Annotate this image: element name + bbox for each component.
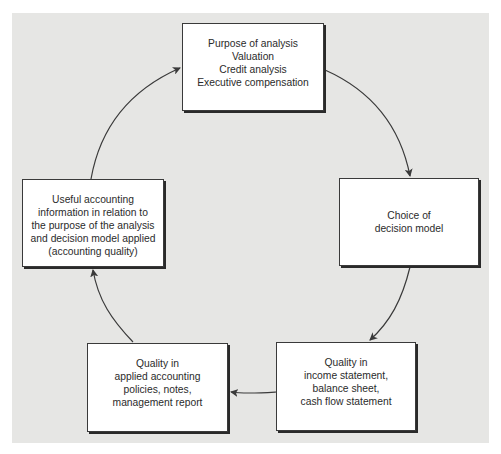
arrow-decision-model-to-quality-statements bbox=[370, 267, 410, 340]
node-text-line: cash flow statement bbox=[301, 395, 392, 408]
node-quality-in-statements: Quality in income statement, balance she… bbox=[276, 342, 416, 431]
node-text-line: Credit analysis bbox=[219, 63, 287, 76]
node-text-line: Quality in bbox=[325, 356, 368, 369]
arrow-purpose-to-decision-model bbox=[325, 70, 410, 176]
node-choice-of-decision-model: Choice of decision model bbox=[339, 178, 479, 266]
node-text-line: Choice of bbox=[387, 209, 431, 222]
arrow-useful-info-to-purpose bbox=[91, 68, 180, 179]
node-text-line: balance sheet, bbox=[313, 382, 380, 395]
node-purpose-of-analysis: Purpose of analysis Valuation Credit ana… bbox=[182, 23, 324, 111]
node-useful-accounting-information: Useful accounting information in relatio… bbox=[22, 179, 164, 267]
node-text-line: Purpose of analysis bbox=[208, 37, 298, 50]
node-quality-in-policies: Quality in applied accounting policies, … bbox=[87, 343, 228, 432]
arrow-statements-to-policies bbox=[231, 392, 276, 393]
node-text-line: management report bbox=[113, 396, 203, 409]
node-text-line: Useful accounting bbox=[52, 193, 134, 206]
node-text-line: policies, notes, bbox=[123, 383, 191, 396]
node-text-line: Quality in bbox=[136, 357, 179, 370]
node-text-line: the purpose of the analysis bbox=[31, 219, 154, 232]
node-text-line: income statement, bbox=[304, 369, 388, 382]
node-text-line: (accounting quality) bbox=[48, 245, 137, 258]
node-text-line: information in relation to bbox=[38, 206, 148, 219]
node-text-line: Executive compensation bbox=[197, 76, 309, 89]
node-text-line: Valuation bbox=[232, 50, 274, 63]
node-text-line: decision model bbox=[375, 222, 444, 235]
arrow-policies-to-useful-info bbox=[93, 270, 133, 342]
node-text-line: and decision model applied bbox=[31, 232, 156, 245]
node-text-line: applied accounting bbox=[115, 370, 201, 383]
